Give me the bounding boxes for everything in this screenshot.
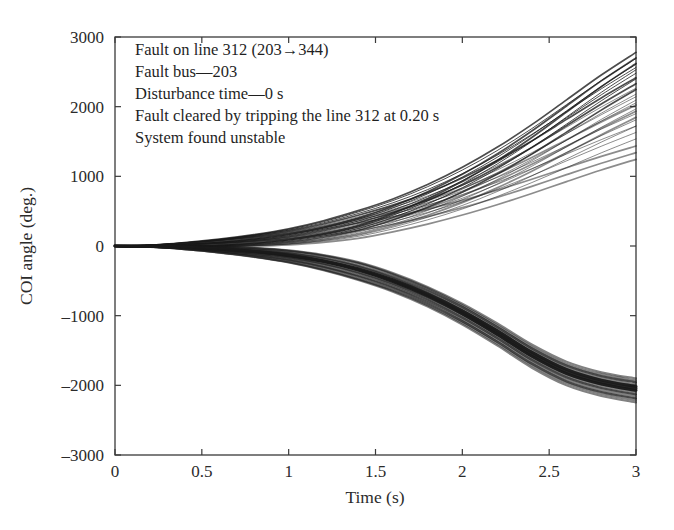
y-tick-label: –2000: [61, 376, 105, 395]
y-tick-label: –1000: [61, 307, 105, 326]
annotation-line: Fault bus—203: [135, 62, 237, 81]
x-tick-label: 1: [284, 462, 293, 481]
y-tick-label: –3000: [61, 446, 105, 465]
y-tick-label: 1000: [70, 167, 104, 186]
curve-gen-down-3: [115, 246, 636, 379]
y-axis-title: COI angle (deg.): [16, 187, 36, 305]
x-tick-label: 2.5: [539, 462, 560, 481]
y-tick-label: 2000: [70, 98, 104, 117]
y-tick-label: 0: [96, 237, 105, 256]
x-tick-labels: 00.511.522.53: [111, 462, 641, 481]
annotation-line: Disturbance time—0 s: [135, 84, 283, 103]
y-tick-labels: 3000200010000–1000–2000–3000: [61, 28, 105, 465]
x-tick-label: 1.5: [365, 462, 386, 481]
curve-gen-up-10: [115, 153, 636, 246]
annotation-line: System found unstable: [135, 128, 285, 147]
annotation-text-block: Fault on line 312 (203→344)Fault bus—203…: [135, 40, 439, 147]
x-tick-label: 0.5: [191, 462, 212, 481]
figure-container: 00.511.522.53 3000200010000–1000–2000–30…: [0, 0, 674, 530]
curve-gen-up-1: [115, 52, 636, 246]
annotation-line: Fault cleared by tripping the line 312 a…: [135, 106, 439, 125]
x-tick-label: 2: [458, 462, 467, 481]
curve-gen-down-2: [115, 246, 636, 380]
curve-gen-up-10: [115, 159, 636, 246]
data-curves: [115, 52, 636, 402]
x-tick-label: 0: [111, 462, 120, 481]
x-tick-label: 3: [632, 462, 641, 481]
x-axis-title: Time (s): [345, 487, 404, 507]
chart-svg: 00.511.522.53 3000200010000–1000–2000–30…: [0, 0, 674, 530]
annotation-line: Fault on line 312 (203→344): [135, 40, 328, 59]
y-tick-label: 3000: [70, 28, 104, 47]
